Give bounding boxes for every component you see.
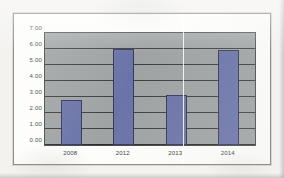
x-axis: 2008201220132014	[44, 149, 256, 161]
bar-chart: 7.006.005.004.003.002.001.000.00 2008201…	[14, 14, 270, 164]
y-axis-tick-label: 3.00	[16, 89, 42, 95]
bar	[218, 50, 239, 145]
x-axis-tick-label: 2014	[221, 149, 235, 157]
y-axis-tick-label: 4.00	[16, 73, 42, 79]
bar	[113, 49, 134, 145]
y-axis-tick-label: 0.00	[16, 137, 42, 143]
plot-area	[44, 32, 256, 146]
bar	[166, 95, 187, 145]
x-axis-tick-label: 2013	[168, 149, 182, 157]
y-axis-tick-label: 7.00	[16, 25, 42, 31]
y-axis: 7.006.005.004.003.002.001.000.00	[14, 32, 42, 146]
y-axis-tick-label: 1.00	[16, 121, 42, 127]
sheet-edge-right	[279, 0, 284, 178]
chart-figure-frame: 7.006.005.004.003.002.001.000.00 2008201…	[13, 13, 271, 165]
scanned-page: 7.006.005.004.003.002.001.000.00 2008201…	[0, 0, 284, 178]
sheet-edge-bottom	[0, 173, 284, 178]
bar	[61, 100, 82, 145]
gridline	[45, 32, 255, 33]
y-axis-tick-label: 2.00	[16, 105, 42, 111]
y-axis-tick-label: 5.00	[16, 57, 42, 63]
y-axis-tick-label: 6.00	[16, 41, 42, 47]
x-axis-tick-label: 2012	[116, 149, 130, 157]
x-axis-tick-label: 2008	[63, 149, 77, 157]
